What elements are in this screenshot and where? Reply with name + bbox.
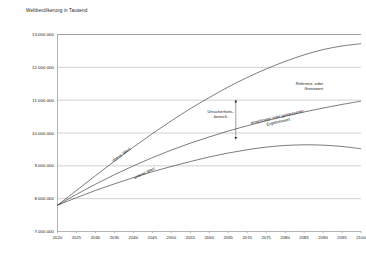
reference-limit-label: Referenz- oderGrenzwert bbox=[296, 81, 324, 91]
y-axis-tick-label: 8.000.000 bbox=[34, 196, 54, 201]
x-axis-tick-label: 2080 bbox=[280, 235, 290, 240]
x-axis-tick-label: 2075 bbox=[261, 235, 271, 240]
lower-curve-label: unterer Wert bbox=[133, 166, 156, 180]
x-axis-tick-label: 2055 bbox=[186, 235, 196, 240]
x-axis-tick-label: 2090 bbox=[318, 235, 328, 240]
x-axis-tick-label: 2025 bbox=[72, 235, 82, 240]
result-value-label: errechneter oder gemessenerErgebniswert bbox=[250, 108, 305, 130]
x-axis-tick-label: 2065 bbox=[223, 235, 233, 240]
gridlines-group bbox=[58, 35, 362, 199]
x-axis-tick-label: 2040 bbox=[129, 235, 139, 240]
y-axis-tick-label: 7.000.000 bbox=[34, 229, 54, 234]
data-series-group bbox=[58, 44, 362, 206]
series-line-oberer-wert bbox=[58, 44, 362, 206]
y-axis-tick-label: 12.000.000 bbox=[32, 65, 55, 70]
arrowhead-bottom bbox=[235, 137, 238, 140]
upper-curve-label-text: oberer Wert bbox=[111, 146, 132, 163]
x-axis-tick-label: 2095 bbox=[337, 235, 347, 240]
series-line-ergebniswert bbox=[58, 101, 362, 205]
x-axis-tick-label: 2100 bbox=[356, 235, 366, 240]
axis-lines-group bbox=[58, 35, 362, 234]
x-axis-tick-label: 2050 bbox=[167, 235, 177, 240]
lower-curve-label-text: unterer Wert bbox=[133, 166, 156, 180]
y-axis-tick-label: 13.000.000 bbox=[32, 32, 55, 37]
x-axis-tick-label: 2020 bbox=[53, 235, 63, 240]
uncertainty-range-label: Unsicherheits-bereich bbox=[208, 109, 235, 119]
y-axis-tick-label: 11.000.000 bbox=[32, 98, 54, 103]
x-axis-tick-label: 2070 bbox=[242, 235, 252, 240]
x-axis-tick-label: 2085 bbox=[299, 235, 309, 240]
y-axis-tick-label: 10.000.000 bbox=[32, 131, 55, 136]
x-axis-tick-label: 2045 bbox=[148, 235, 158, 240]
y-axis-tick-labels: 7.000.0008.000.0009.000.00010.000.00011.… bbox=[32, 32, 55, 234]
reference-limit-label-line2: Grenzwert bbox=[304, 86, 324, 91]
y-axis-tick-label: 9.000.000 bbox=[34, 163, 54, 168]
annotations-group: oberer Wertunterer WertReferenz- oderGre… bbox=[111, 81, 324, 180]
x-axis-tick-labels: 2020202520302035204020452050205520602065… bbox=[53, 235, 366, 240]
series-line-unterer-wert bbox=[58, 145, 362, 205]
x-axis-tick-label: 2060 bbox=[204, 235, 214, 240]
upper-curve-label: oberer Wert bbox=[111, 146, 132, 163]
chart-container: Weltbevölkerung in Tausend 7.000.0008.00… bbox=[0, 0, 366, 255]
chart-plot: 7.000.0008.000.0009.000.00010.000.00011.… bbox=[0, 0, 366, 255]
x-axis-tick-label: 2035 bbox=[110, 235, 120, 240]
x-axis-tick-label: 2030 bbox=[91, 235, 101, 240]
uncertainty-range-label-line2: bereich bbox=[214, 114, 228, 119]
